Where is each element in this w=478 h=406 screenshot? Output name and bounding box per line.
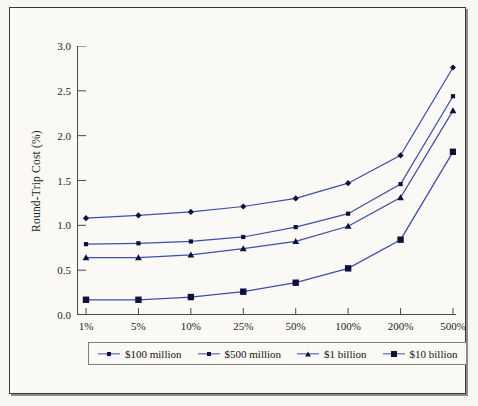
data-point-marker	[83, 297, 89, 303]
y-tick-label: 2.5	[37, 85, 71, 97]
data-point-marker	[188, 209, 194, 215]
legend-marker-icon	[383, 349, 405, 359]
x-tick-label: 100%	[335, 320, 361, 332]
legend-label: $100 million	[125, 348, 182, 360]
legend-square-small-icon	[207, 352, 211, 356]
data-point-marker	[294, 225, 298, 229]
data-point-marker	[84, 242, 88, 246]
data-point-marker	[293, 280, 299, 286]
data-point-marker	[136, 241, 140, 245]
data-point-marker	[135, 297, 141, 303]
data-point-marker	[135, 212, 141, 218]
series-line	[86, 96, 453, 244]
legend-item: $1 billion	[297, 348, 366, 360]
data-point-marker	[451, 94, 455, 98]
series-2	[84, 94, 455, 246]
data-point-marker	[241, 235, 245, 239]
legend-triangle-icon	[305, 351, 311, 356]
data-point-marker	[189, 239, 193, 243]
x-tick-label: 10%	[181, 320, 201, 332]
x-tick-label: 200%	[388, 320, 414, 332]
data-point-marker	[345, 180, 351, 186]
y-tick-label: 0.0	[37, 309, 71, 321]
x-tick-label: 50%	[286, 320, 306, 332]
y-tick-label: 2.0	[37, 130, 71, 142]
series-line	[86, 68, 453, 219]
y-tick-label: 3.0	[37, 40, 71, 52]
data-point-marker	[450, 149, 456, 155]
legend-label: $10 billion	[410, 348, 458, 360]
x-tick-label: 1%	[79, 320, 94, 332]
legend-label: $500 million	[225, 348, 282, 360]
legend-marker-icon	[297, 349, 319, 359]
legend-diamond-icon	[107, 352, 111, 356]
y-axis-tick-labels: 3.02.52.01.51.00.50.0	[35, 46, 71, 315]
legend-marker-icon	[198, 349, 220, 359]
series-4	[83, 149, 456, 303]
data-point-marker	[450, 64, 456, 70]
x-tick-label: 500%	[440, 320, 466, 332]
figure-frame: Round-Trip Cost (%) 3.02.52.01.51.00.50.…	[9, 7, 466, 394]
legend-square-large-icon	[391, 351, 397, 357]
series-line	[86, 152, 453, 300]
data-point-marker	[397, 194, 404, 200]
legend-marker-icon	[98, 349, 120, 359]
y-tick-label: 1.0	[37, 219, 71, 231]
data-point-marker	[398, 182, 402, 186]
plot-area	[77, 46, 456, 315]
y-tick-label: 1.5	[37, 175, 71, 187]
data-point-marker	[346, 212, 350, 216]
y-tick-label: 0.5	[37, 264, 71, 276]
data-point-marker	[397, 236, 403, 242]
x-tick-label: 25%	[233, 320, 253, 332]
data-point-marker	[293, 195, 299, 201]
legend-item: $100 million	[98, 348, 182, 360]
chart-page: Round-Trip Cost (%) 3.02.52.01.51.00.50.…	[0, 0, 478, 406]
legend-item: $500 million	[198, 348, 282, 360]
data-point-marker	[240, 203, 246, 209]
x-axis-tick-labels: 1%5%10%25%50%100%200%500%	[77, 320, 456, 336]
data-point-marker	[240, 288, 246, 294]
data-point-marker	[397, 152, 403, 158]
legend-item: $10 billion	[383, 348, 458, 360]
x-tick-label: 5%	[131, 320, 146, 332]
legend-label: $1 billion	[324, 348, 366, 360]
plot-svg	[77, 46, 456, 315]
data-point-marker	[345, 223, 352, 229]
data-point-marker	[188, 294, 194, 300]
series-line	[86, 111, 453, 258]
data-point-marker	[450, 107, 456, 113]
chart-legend: $100 million$500 million$1 billion$10 bi…	[88, 342, 468, 365]
data-point-marker	[345, 265, 351, 271]
data-point-marker	[83, 215, 89, 221]
